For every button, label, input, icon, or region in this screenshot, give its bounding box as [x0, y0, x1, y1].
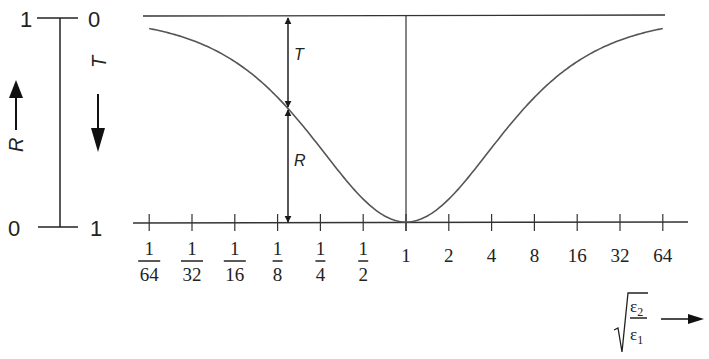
svg-text:1: 1 [187, 238, 197, 259]
top-line [143, 15, 665, 16]
x-tick-label: 4 [487, 245, 497, 266]
svg-text:1: 1 [358, 238, 368, 259]
plot-area: 1641321161814121248163264 T R [133, 15, 688, 285]
svg-text:1: 1 [230, 238, 240, 259]
x-tick-label: 132 [181, 238, 203, 285]
x-label-numerator: ε2 [630, 297, 643, 319]
svg-text:1: 1 [316, 238, 326, 259]
svg-text:64: 64 [140, 264, 160, 285]
svg-text:1: 1 [401, 245, 411, 266]
right-arrow-icon [661, 314, 704, 324]
x-tick-label: 2 [444, 245, 454, 266]
x-tick-label: 64 [653, 245, 673, 266]
svg-text:8: 8 [530, 245, 540, 266]
left-bottom-label: 0 [8, 216, 20, 241]
svg-text:2: 2 [444, 245, 454, 266]
x-tick-labels: 1641321161814121248163264 [138, 238, 673, 285]
x-tick-label: 32 [611, 245, 630, 266]
t-annotation: T [294, 46, 305, 63]
x-tick-label: 8 [530, 245, 540, 266]
x-tick-label: 16 [568, 245, 587, 266]
right-bottom-label: 1 [90, 216, 102, 241]
x-tick-label: 1 [401, 245, 411, 266]
r-axis-label: R [5, 138, 27, 152]
r-annotation: R [294, 152, 306, 169]
x-tick-label: 12 [358, 238, 368, 285]
svg-text:2: 2 [358, 264, 368, 285]
right-top-label: 0 [88, 7, 100, 32]
x-tick-label: 164 [138, 238, 160, 285]
svg-text:64: 64 [653, 245, 673, 266]
r-up-arrow-icon [9, 80, 23, 130]
x-axis-label: ε2 ε1 [614, 293, 704, 352]
reflectance-transmittance-chart: 1 0 0 1 R T 1641321161814121248163264 [0, 0, 709, 359]
svg-text:1: 1 [144, 238, 154, 259]
x-tick-label: 18 [273, 238, 283, 285]
svg-text:16: 16 [225, 264, 244, 285]
svg-text:32: 32 [183, 264, 202, 285]
left-top-label: 1 [20, 7, 32, 32]
svg-text:16: 16 [568, 245, 587, 266]
x-tick-label: 14 [315, 238, 325, 285]
t-axis-label: T [88, 54, 110, 68]
t-down-arrow-icon [91, 94, 105, 152]
svg-text:8: 8 [273, 264, 283, 285]
svg-text:1: 1 [273, 238, 283, 259]
svg-text:4: 4 [316, 264, 326, 285]
x-label-denominator: ε1 [630, 325, 643, 347]
left-scale: 1 0 0 1 R T [5, 7, 110, 241]
x-tick-label: 116 [224, 238, 246, 285]
svg-text:32: 32 [611, 245, 630, 266]
svg-text:4: 4 [487, 245, 497, 266]
